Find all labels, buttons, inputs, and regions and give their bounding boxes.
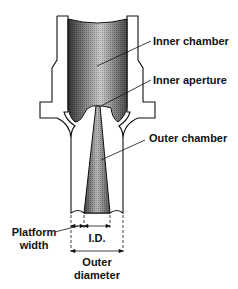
label-platform-width-2: width [10, 239, 58, 251]
label-platform-width-1: Platform [10, 226, 58, 238]
label-outer-diameter-2: diameter [67, 269, 127, 281]
label-outer-diameter-1: Outer [67, 256, 127, 268]
label-outer-chamber: Outer chamber [149, 132, 227, 144]
label-inner-chamber: Inner chamber [153, 35, 229, 47]
label-inner-diameter: I.D. [84, 232, 110, 244]
label-inner-aperture: Inner aperture [153, 74, 227, 86]
pipette-diagram: Inner chamber Inner aperture Outer chamb… [0, 0, 238, 289]
